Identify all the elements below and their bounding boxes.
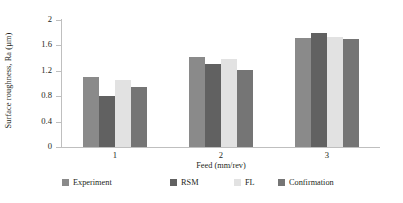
bar-chart-figure: Surface roughness, Ra (µm) 00.40.81.21.6… xyxy=(0,0,403,203)
legend-swatch-icon xyxy=(170,179,177,186)
y-axis-tick-label: 2 xyxy=(2,15,52,24)
y-axis-tick-label: 1.6 xyxy=(2,40,52,49)
y-axis-tick xyxy=(56,147,62,148)
bar xyxy=(83,77,99,147)
y-axis-tick xyxy=(56,45,62,46)
y-axis-tick-label: 0 xyxy=(2,142,52,151)
bar xyxy=(131,87,147,147)
y-axis-tick xyxy=(56,122,62,123)
y-axis-tick-label: 0.4 xyxy=(2,117,52,126)
bar xyxy=(221,59,237,147)
x-axis-category-label: 2 xyxy=(201,150,241,160)
legend-swatch-icon xyxy=(62,179,69,186)
y-axis-tick-label: 0.8 xyxy=(2,91,52,100)
y-axis-tick-label-wrap: 0 xyxy=(0,142,52,152)
bar xyxy=(189,57,205,147)
y-axis-tick-label-wrap: 0.4 xyxy=(0,117,52,127)
x-axis-category-label: 1 xyxy=(95,150,135,160)
y-axis-line xyxy=(61,19,62,148)
x-axis-line xyxy=(61,147,380,148)
x-axis-category-label: 3 xyxy=(307,150,347,160)
bar xyxy=(237,70,253,147)
x-axis-title: Feed (mm/rev) xyxy=(62,161,380,170)
bar xyxy=(295,38,311,147)
bar-group xyxy=(295,20,359,147)
bar xyxy=(343,39,359,147)
bar xyxy=(311,33,327,147)
y-axis-tick xyxy=(56,71,62,72)
legend-item[interactable]: Experiment xyxy=(62,178,112,187)
legend-label: FL xyxy=(245,178,255,187)
legend-swatch-icon xyxy=(278,179,285,186)
legend-item[interactable]: RSM xyxy=(170,178,199,187)
bar-group xyxy=(189,20,253,147)
bar-group xyxy=(83,20,147,147)
y-axis-tick-label-wrap: 1.2 xyxy=(0,66,52,76)
bar xyxy=(327,37,343,147)
y-axis-tick-label: 1.2 xyxy=(2,66,52,75)
legend-swatch-icon xyxy=(234,179,241,186)
y-axis-tick-label-wrap: 0.8 xyxy=(0,91,52,101)
legend-item[interactable]: FL xyxy=(234,178,255,187)
y-axis-tick-label-wrap: 1.6 xyxy=(0,40,52,50)
y-axis-tick xyxy=(56,20,62,21)
y-axis-tick-label-wrap: 2 xyxy=(0,15,52,25)
bar xyxy=(115,80,131,147)
bar xyxy=(99,96,115,147)
legend-label: Experiment xyxy=(73,178,112,187)
legend-label: Confirmation xyxy=(289,178,334,187)
y-axis-tick xyxy=(56,96,62,97)
legend-item[interactable]: Confirmation xyxy=(278,178,334,187)
legend-label: RSM xyxy=(181,178,199,187)
bar xyxy=(205,64,221,147)
